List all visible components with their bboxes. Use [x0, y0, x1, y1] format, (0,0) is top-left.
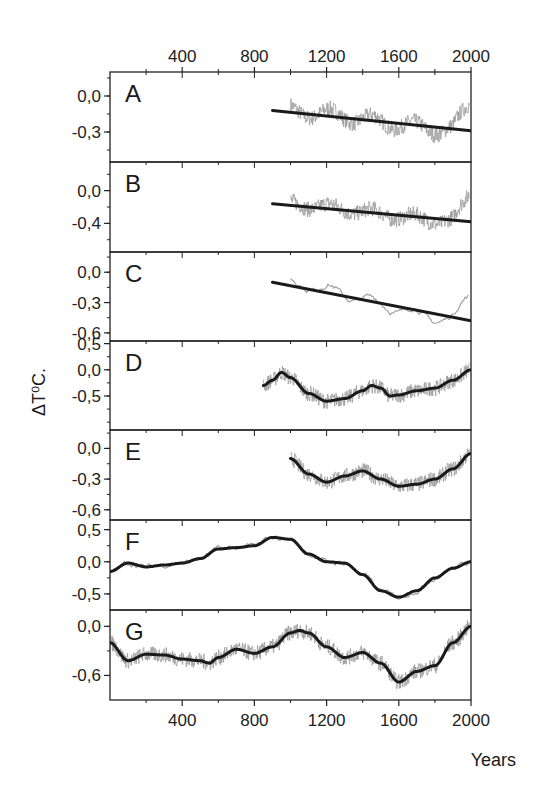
panel-label: F [125, 528, 140, 555]
top-x-tick-label: 2000 [452, 47, 490, 66]
panel-frame [110, 162, 471, 252]
top-x-tick-label: 1200 [308, 47, 346, 66]
chart-figure: 400800120016002000 0,0-0,3A0,0-0,4B0,0-0… [0, 0, 539, 795]
panels: 0,0-0,3A0,0-0,4B0,0-0,3-0,6C0,50,0-0,5D0… [72, 72, 471, 700]
top-x-tick-label: 400 [168, 47, 196, 66]
trend-line [273, 110, 472, 130]
panel-frame [110, 252, 471, 341]
trend-line [273, 204, 472, 222]
y-tick-label: 0,0 [77, 87, 101, 106]
panel-label: B [125, 170, 141, 197]
panel-frame [110, 430, 471, 520]
x-tick-label: 400 [168, 711, 196, 730]
y-tick-label: -0,6 [72, 666, 101, 685]
panel-g: 0,0-0,6G [72, 610, 471, 700]
panel-label: E [125, 438, 141, 465]
panel-label: C [125, 260, 142, 287]
y-tick-label: -0,5 [72, 585, 101, 604]
y-axis-title: ΔT⁰C. [29, 368, 49, 416]
x-tick-label: 800 [240, 711, 268, 730]
panel-c: 0,0-0,3-0,6C [72, 252, 471, 343]
y-tick-label: -0,3 [72, 294, 101, 313]
panel-label: G [125, 618, 144, 645]
raw-series [291, 191, 470, 230]
panel-a: 0,0-0,3A [72, 72, 471, 162]
y-tick-label: -0,3 [72, 470, 101, 489]
x-tick-label: 1600 [380, 711, 418, 730]
y-tick-label: -0,6 [72, 501, 101, 520]
top-x-tick-label: 1600 [380, 47, 418, 66]
trend-line [273, 282, 472, 321]
top-x-tick-label: 800 [240, 47, 268, 66]
x-axis-title: Years [471, 750, 516, 770]
y-tick-label: 0,0 [77, 553, 101, 572]
y-tick-label: 0,0 [77, 263, 101, 282]
x-tick-label: 1200 [308, 711, 346, 730]
y-tick-label: 0,0 [77, 361, 101, 380]
raw-series [291, 449, 470, 492]
y-tick-label: 0,0 [77, 617, 101, 636]
y-tick-label: 0,0 [77, 439, 101, 458]
panel-frame [110, 341, 471, 430]
y-tick-label: -0,4 [72, 214, 101, 233]
bottom-x-axis: 400800120016002000 [146, 700, 490, 730]
y-tick-label: -0,3 [72, 123, 101, 142]
panel-d: 0,50,0-0,5D [72, 335, 471, 430]
panel-e: 0,0-0,3-0,6E [72, 430, 471, 520]
panel-label: D [125, 349, 142, 376]
x-tick-label: 2000 [452, 711, 490, 730]
y-tick-label: -0,5 [72, 387, 101, 406]
panel-b: 0,0-0,4B [72, 162, 471, 252]
panel-f: 0,50,0-0,5F [72, 520, 471, 610]
y-tick-label: 0,5 [77, 335, 101, 354]
top-x-axis: 400800120016002000 [146, 47, 490, 72]
y-tick-label: 0,0 [77, 182, 101, 201]
panel-label: A [125, 80, 141, 107]
y-tick-label: 0,5 [77, 521, 101, 540]
